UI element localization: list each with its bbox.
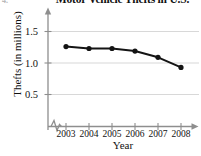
x-axis-label: Year (48, 139, 198, 151)
data-series-thefts (63, 44, 183, 70)
data-point-2004 (86, 46, 91, 51)
gridlines (48, 32, 199, 95)
data-point-2005 (109, 46, 114, 51)
data-point-2007 (155, 55, 160, 60)
x-tick-label-2008: 2008 (166, 129, 196, 139)
chart-figure: 4. Motor Vehicle Thefts in U.S. (0, 0, 201, 156)
y-axis-label: Thefts (in millions) (11, 2, 23, 106)
data-point-2003 (63, 44, 68, 49)
data-point-2006 (132, 48, 137, 53)
data-point-2008 (178, 65, 183, 70)
y-axis (45, 8, 52, 131)
